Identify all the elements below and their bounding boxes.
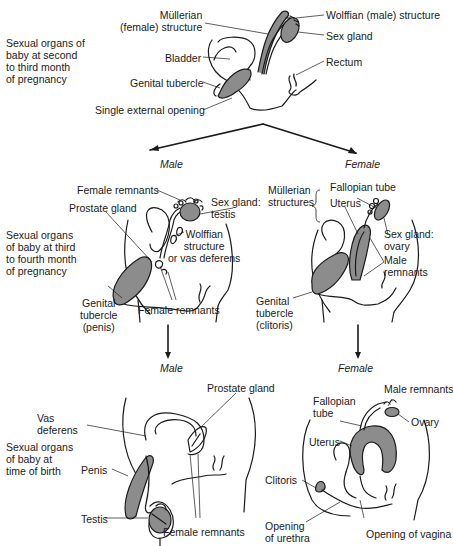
label-wolffian-male-structure: Wolffian (male) structure [326,9,440,21]
arrow-head-male-2 [165,352,171,359]
branch-arrows-top [150,124,356,153]
label-uterus-2: Uterus [330,197,361,209]
label-prostate-gland-2: Prostate gland [69,202,137,214]
label-genital-tubercle-clitoris: Genital tubercle (clitoris) [256,295,293,331]
label-genital-tubercle: Genital tubercle [130,77,204,89]
label-single-external-opening: Single external opening [95,104,205,116]
label-opening-of-urethra: Opening of urethra [265,520,310,544]
panel3-male-drawing [123,398,256,546]
branch-label-female-top: Female [345,158,380,170]
label-testis: Testis [81,513,108,525]
label-fallopian-tube-3: Fallopian tube [313,395,356,419]
branch-label-male-bottom: Male [160,362,183,374]
stage-label-time-of-birth: Sexual organs of baby at time of birth [6,441,73,477]
label-vas-deferens: Vas deferens [37,412,78,436]
label-clitoris: Clitoris [265,474,297,486]
label-penis: Penis [81,464,107,476]
arrow-head-female-2 [355,352,361,359]
stage-label-third-fourth-month: Sexual organs of baby at third to fourth… [6,229,77,277]
label-ovary: Ovary [411,416,439,428]
label-genital-tubercle-penis: Genital tubercle (penis) [80,297,117,333]
label-prostate-gland-3: Prostate gland [207,382,275,394]
branch-label-female-bottom: Female [338,362,373,374]
label-uterus-3: Uterus [309,436,340,448]
label-mullerian-female-structure: Müllerian (female) structure [120,9,202,33]
label-male-remnants-3: Male remnants [384,383,453,395]
label-female-remnants-top: Female remnants [77,184,159,196]
label-female-remnants-bottom: Female remnants [138,304,220,316]
arrow-head-female [348,147,357,154]
label-wolffian-structure-vas-deferens: Wolffian structure or vas deferens [168,228,240,264]
label-fallopian-tube-2: Fallopian tube [330,181,396,193]
stage-label-second-third-month: Sexual organs of baby at second to third… [6,37,85,85]
label-sex-gland-testis: Sex gland: testis [211,196,261,220]
label-sex-gland-ovary: Sex gland: ovary [384,228,434,252]
label-male-remnants-2: Male remnants [384,254,428,278]
panel1-embryo-drawing [209,11,316,110]
label-sex-gland: Sex gland [326,30,373,42]
label-opening-of-vagina: Opening of vagina [366,528,451,540]
label-mullerian-structures: Müllerian structures [268,184,314,208]
arrow-head-male [150,145,159,151]
label-female-remnants-3: Female remnants [163,526,245,538]
branch-label-male-top: Male [160,158,183,170]
label-bladder: Bladder [165,52,201,64]
label-rectum: Rectum [326,56,362,68]
